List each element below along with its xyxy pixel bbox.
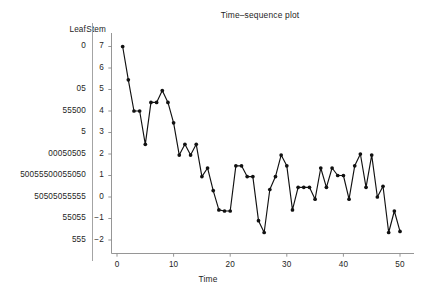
plot-canvas bbox=[0, 0, 429, 298]
data-point bbox=[126, 78, 130, 82]
data-point bbox=[330, 166, 334, 170]
data-point bbox=[257, 219, 261, 223]
data-point bbox=[359, 152, 363, 156]
data-point bbox=[302, 185, 306, 189]
data-point bbox=[217, 208, 221, 212]
data-point bbox=[189, 153, 193, 157]
data-point bbox=[387, 231, 391, 235]
data-point bbox=[160, 89, 164, 93]
data-point bbox=[313, 197, 317, 201]
data-point bbox=[308, 185, 312, 189]
data-point bbox=[291, 208, 295, 212]
data-point bbox=[228, 209, 232, 213]
data-point bbox=[285, 164, 289, 168]
data-point bbox=[262, 231, 266, 235]
data-point bbox=[364, 185, 368, 189]
data-point bbox=[200, 175, 204, 179]
data-point bbox=[370, 153, 374, 157]
data-point bbox=[132, 109, 136, 113]
data-point bbox=[194, 142, 198, 146]
data-point bbox=[279, 153, 283, 157]
data-point bbox=[211, 189, 215, 193]
data-point bbox=[166, 101, 170, 105]
data-point bbox=[223, 209, 227, 213]
data-point bbox=[336, 174, 340, 178]
data-point bbox=[381, 184, 385, 188]
time-sequence-figure: Time–sequence plot Leaf Stem 00555500500… bbox=[0, 0, 429, 298]
data-point bbox=[251, 175, 255, 179]
series-line bbox=[123, 47, 400, 233]
figure-root: Time–sequence plot Leaf Stem 00555500500… bbox=[0, 0, 429, 298]
data-point bbox=[398, 230, 402, 234]
data-point bbox=[268, 188, 272, 192]
data-point bbox=[172, 121, 176, 125]
data-point bbox=[155, 101, 159, 105]
data-point bbox=[376, 195, 380, 199]
data-point bbox=[234, 164, 238, 168]
data-point bbox=[245, 175, 249, 179]
data-point bbox=[183, 142, 187, 146]
data-point bbox=[177, 153, 181, 157]
data-point bbox=[353, 164, 357, 168]
data-point bbox=[319, 166, 323, 170]
data-point bbox=[274, 175, 278, 179]
data-point bbox=[296, 185, 300, 189]
data-point bbox=[392, 209, 396, 213]
data-point bbox=[149, 101, 153, 105]
data-point bbox=[240, 164, 244, 168]
data-point bbox=[138, 109, 142, 113]
data-point bbox=[325, 185, 329, 189]
data-point bbox=[347, 197, 351, 201]
data-point bbox=[143, 142, 147, 146]
data-point bbox=[121, 45, 125, 49]
data-point bbox=[342, 174, 346, 178]
data-point bbox=[206, 166, 210, 170]
